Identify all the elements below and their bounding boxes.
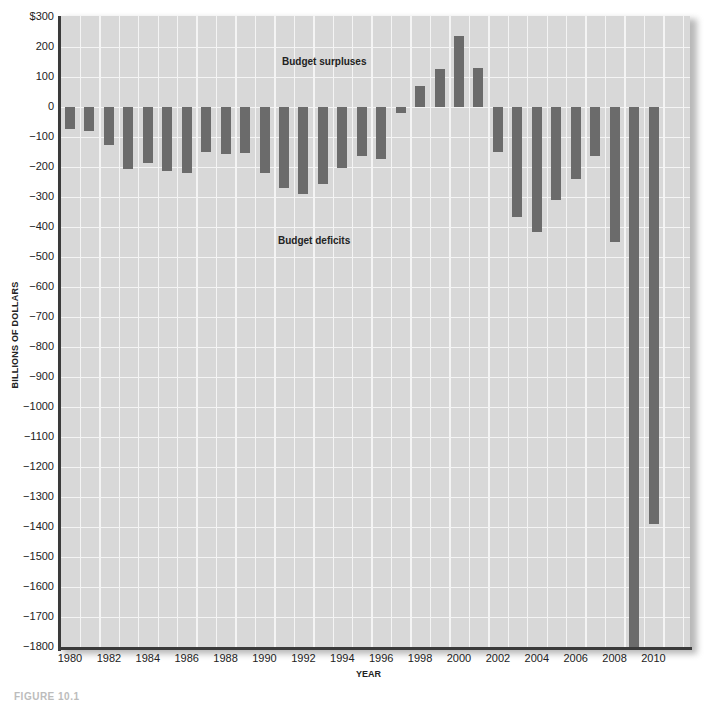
gridline-vertical (177, 16, 178, 648)
gridline-vertical (449, 16, 450, 648)
annotation-surpluses: Budget surpluses (282, 56, 366, 67)
bar-1993 (318, 107, 328, 184)
x-tick-label: 2006 (556, 652, 596, 664)
x-tick-label: 1980 (50, 652, 90, 664)
gridline-vertical (410, 16, 411, 648)
gridline-vertical (294, 16, 295, 648)
gridline-vertical (663, 16, 664, 648)
x-tick-label: 1986 (167, 652, 207, 664)
gridline-vertical (488, 16, 489, 648)
gridline-horizontal (60, 227, 690, 228)
x-axis-label: YEAR (356, 669, 381, 679)
x-tick-label: 2010 (634, 652, 674, 664)
y-axis-line (58, 16, 61, 651)
gridline-horizontal (60, 377, 690, 378)
gridline-horizontal (60, 47, 690, 48)
y-tick-label: −1300 (4, 490, 54, 502)
bar-1999 (435, 69, 445, 107)
gridline-horizontal (60, 497, 690, 498)
x-tick-label: 1988 (206, 652, 246, 664)
gridline-vertical (80, 16, 81, 648)
y-tick-label: −1600 (4, 580, 54, 592)
bar-2005 (551, 107, 561, 200)
bar-2003 (512, 107, 522, 217)
gridline-horizontal (60, 197, 690, 198)
gridline-vertical (235, 16, 236, 648)
gridline-vertical (313, 16, 314, 648)
x-axis-line (58, 647, 692, 650)
gridline-vertical (158, 16, 159, 648)
bar-1987 (201, 107, 211, 152)
gridline-vertical (508, 16, 509, 648)
bar-1991 (279, 107, 289, 188)
gridline-horizontal (60, 437, 690, 438)
gridline-vertical (683, 16, 684, 648)
gridline-vertical (585, 16, 586, 648)
bar-2002 (493, 107, 503, 152)
gridline-vertical (469, 16, 470, 648)
y-tick-label: −1100 (4, 430, 54, 442)
x-tick-label: 1982 (89, 652, 129, 664)
bar-1982 (104, 107, 114, 145)
y-axis-label: BILLIONS OF DOLLARS (10, 280, 20, 390)
gridline-horizontal (60, 287, 690, 288)
gridline-vertical (196, 16, 197, 648)
gridline-horizontal (60, 587, 690, 588)
x-tick-label: 2002 (478, 652, 518, 664)
gridline-horizontal (60, 407, 690, 408)
bar-1988 (221, 107, 231, 154)
bar-1995 (357, 107, 367, 156)
bar-2001 (473, 68, 483, 107)
gridline-vertical (527, 16, 528, 648)
gridline-vertical (391, 16, 392, 648)
x-tick-label: 1990 (245, 652, 285, 664)
x-tick-label: 1992 (283, 652, 323, 664)
y-tick-label: −300 (4, 190, 54, 202)
bar-1996 (376, 107, 386, 159)
y-tick-label: −1000 (4, 400, 54, 412)
x-tick-label: 2008 (595, 652, 635, 664)
y-tick-label: −1700 (4, 610, 54, 622)
bar-2000 (454, 36, 464, 107)
gridline-horizontal (60, 347, 690, 348)
gridline-vertical (624, 16, 625, 648)
gridline-vertical (274, 16, 275, 648)
bar-1981 (84, 107, 94, 131)
bar-1986 (182, 107, 192, 173)
bar-1990 (260, 107, 270, 173)
gridline-horizontal (60, 617, 690, 618)
bar-1997 (396, 107, 406, 113)
y-tick-label: −1400 (4, 520, 54, 532)
gridline-vertical (138, 16, 139, 648)
bar-2007 (590, 107, 600, 156)
bar-1998 (415, 86, 425, 107)
figure-caption: FIGURE 10.1 (14, 691, 80, 702)
y-tick-label: −200 (4, 160, 54, 172)
bar-1985 (162, 107, 172, 171)
y-tick-label: 0 (4, 100, 54, 112)
gridline-vertical (352, 16, 353, 648)
bar-2009 (629, 107, 639, 648)
y-tick-label: −1800 (4, 640, 54, 652)
bar-1992 (298, 107, 308, 194)
bar-1983 (123, 107, 133, 169)
gridline-vertical (566, 16, 567, 648)
bar-2006 (571, 107, 581, 179)
y-tick-label: 200 (4, 40, 54, 52)
gridline-vertical (333, 16, 334, 648)
gridline-horizontal (60, 317, 690, 318)
gridline-vertical (371, 16, 372, 648)
gridline-vertical (430, 16, 431, 648)
bar-1989 (240, 107, 250, 153)
gridline-vertical (119, 16, 120, 648)
gridline-horizontal (60, 77, 690, 78)
gridline-horizontal (60, 257, 690, 258)
gridline-vertical (216, 16, 217, 648)
bar-1984 (143, 107, 153, 163)
bar-1994 (337, 107, 347, 168)
gridline-horizontal (60, 167, 690, 168)
bar-2010 (649, 107, 659, 524)
x-tick-label: 2000 (439, 652, 479, 664)
gridline-vertical (644, 16, 645, 648)
